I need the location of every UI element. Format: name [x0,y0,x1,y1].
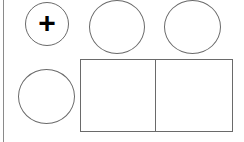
plus-icon: + [38,8,56,38]
add-button[interactable]: + [25,2,69,46]
circle-button-3[interactable] [164,0,221,54]
panel [80,59,233,132]
panel-divider [155,60,156,131]
circle-button-4[interactable] [18,69,75,124]
circle-button-2[interactable] [89,0,145,54]
left-border-line [3,0,4,142]
